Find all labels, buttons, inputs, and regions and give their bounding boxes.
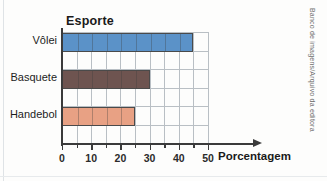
x-tick-minor: [164, 144, 165, 148]
bar-gridline: [92, 108, 93, 125]
bar-gridline: [136, 71, 137, 88]
y-axis-line: [61, 28, 63, 146]
gridline-vertical: [208, 32, 209, 143]
bar-gridline: [136, 34, 137, 51]
x-tick-label: 40: [166, 152, 192, 164]
x-tick-minor: [106, 144, 107, 148]
chart-title: Esporte: [66, 14, 114, 28]
x-tick-major: [208, 144, 209, 150]
plot-area: [62, 32, 208, 143]
bar-gridline: [107, 34, 108, 51]
bar-gridline: [151, 34, 152, 51]
bar-gridline: [180, 34, 181, 51]
bar-handebol: [62, 107, 135, 126]
bar-gridline: [92, 71, 93, 88]
bar-gridline-overlay: [63, 108, 134, 125]
x-tick-minor: [193, 144, 194, 148]
image-credit: Banco de imagens/Arquivo da editora: [309, 8, 316, 128]
category-label-basquete: Basquete: [11, 71, 57, 84]
x-tick-label: 10: [78, 152, 104, 164]
x-tick-major: [120, 144, 121, 150]
category-label-vlei: Vôlei: [33, 34, 57, 47]
x-tick-major: [150, 144, 151, 150]
x-tick-major: [179, 144, 180, 150]
bar-vlei: [62, 33, 193, 52]
bar-gridline: [121, 71, 122, 88]
bar-gridline: [107, 108, 108, 125]
bar-gridline-overlay: [63, 71, 149, 88]
bar-gridline: [121, 108, 122, 125]
bar-gridline: [78, 108, 79, 125]
y-axis-category-labels: VôleiBasqueteHandebol: [0, 0, 57, 181]
x-tick-label: 30: [137, 152, 163, 164]
bar-basquete: [62, 70, 150, 89]
x-tick-major: [91, 144, 92, 150]
bar-gridline: [165, 34, 166, 51]
bar-gridline: [107, 71, 108, 88]
x-tick-major: [62, 144, 63, 150]
x-axis-title: Porcentagem: [218, 150, 291, 162]
bar-gridline: [121, 34, 122, 51]
x-tick-minor: [135, 144, 136, 148]
x-tick-label: 20: [107, 152, 133, 164]
bar-gridline: [92, 34, 93, 51]
category-label-handebol: Handebol: [10, 108, 57, 121]
x-tick-minor: [77, 144, 78, 148]
chart-figure: Esporte 01020304050 VôleiBasqueteHandebo…: [0, 0, 327, 181]
bar-gridline: [78, 34, 79, 51]
x-axis-arrow-icon: [253, 139, 262, 147]
bar-gridline-overlay: [63, 34, 192, 51]
bar-gridline: [78, 71, 79, 88]
